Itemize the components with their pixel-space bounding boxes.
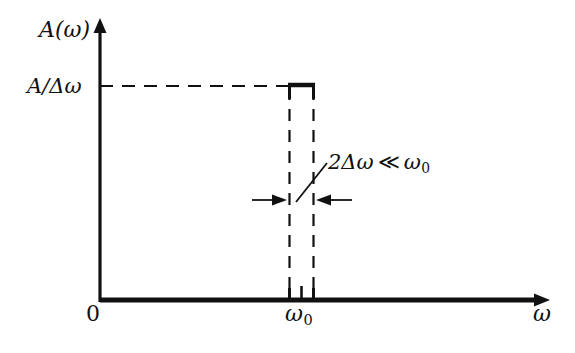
y-axis-arrowhead (94, 18, 107, 33)
annotation-lead: 2Δ (328, 150, 357, 174)
width-annotation: 2Δω≪ω0 (328, 152, 430, 176)
width-dimension-arrows (252, 195, 352, 206)
origin-label: 0 (86, 303, 100, 325)
annotation-omega0-subscript: 0 (421, 160, 430, 176)
omega0-base: ω (285, 301, 303, 326)
x-axis-tick-label-omega0: ω0 (285, 303, 313, 328)
dimension-arrow-right-head (316, 195, 331, 206)
rectangular-pulse (288, 85, 315, 300)
x-axis-label: ω (533, 303, 551, 325)
y-axis (94, 18, 107, 302)
y-axis-label: A(ω) (39, 19, 90, 41)
annotation-omega0-base: ω (404, 150, 421, 174)
omega0-subscript: 0 (303, 312, 312, 328)
dimension-arrow-left-head (272, 195, 287, 206)
annotation-much-less-than: ≪ (378, 150, 400, 174)
annotation-leader-line (296, 163, 327, 202)
spectral-amplitude-figure: A(ω) A/Δω 0 ω0 ω 2Δω≪ω0 (0, 0, 575, 353)
y-axis-tick-label: A/Δω (27, 76, 82, 97)
x-axis (100, 294, 550, 307)
annotation-omega: ω (357, 150, 374, 174)
